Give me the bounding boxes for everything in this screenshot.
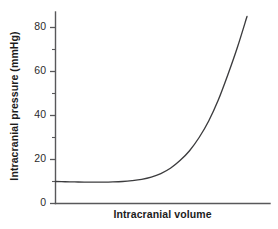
y-tick-label-0: 0 <box>40 196 46 208</box>
y-axis-title-container: Intracranial pressure (mmHg) <box>0 0 30 229</box>
chart-figure: 0 20 40 60 80 Intracranial pressure (mmH… <box>0 0 278 229</box>
y-tick-label-60: 60 <box>34 64 46 76</box>
y-tick-label-40: 40 <box>34 108 46 120</box>
x-axis-title: Intracranial volume <box>55 208 270 220</box>
y-axis-title: Intracranial pressure (mmHg) <box>8 6 20 206</box>
pressure-volume-curve <box>56 17 248 183</box>
chart-plot-area: 0 20 40 60 80 <box>0 0 278 229</box>
y-tick-label-80: 80 <box>34 20 46 32</box>
y-tick-label-20: 20 <box>34 152 46 164</box>
